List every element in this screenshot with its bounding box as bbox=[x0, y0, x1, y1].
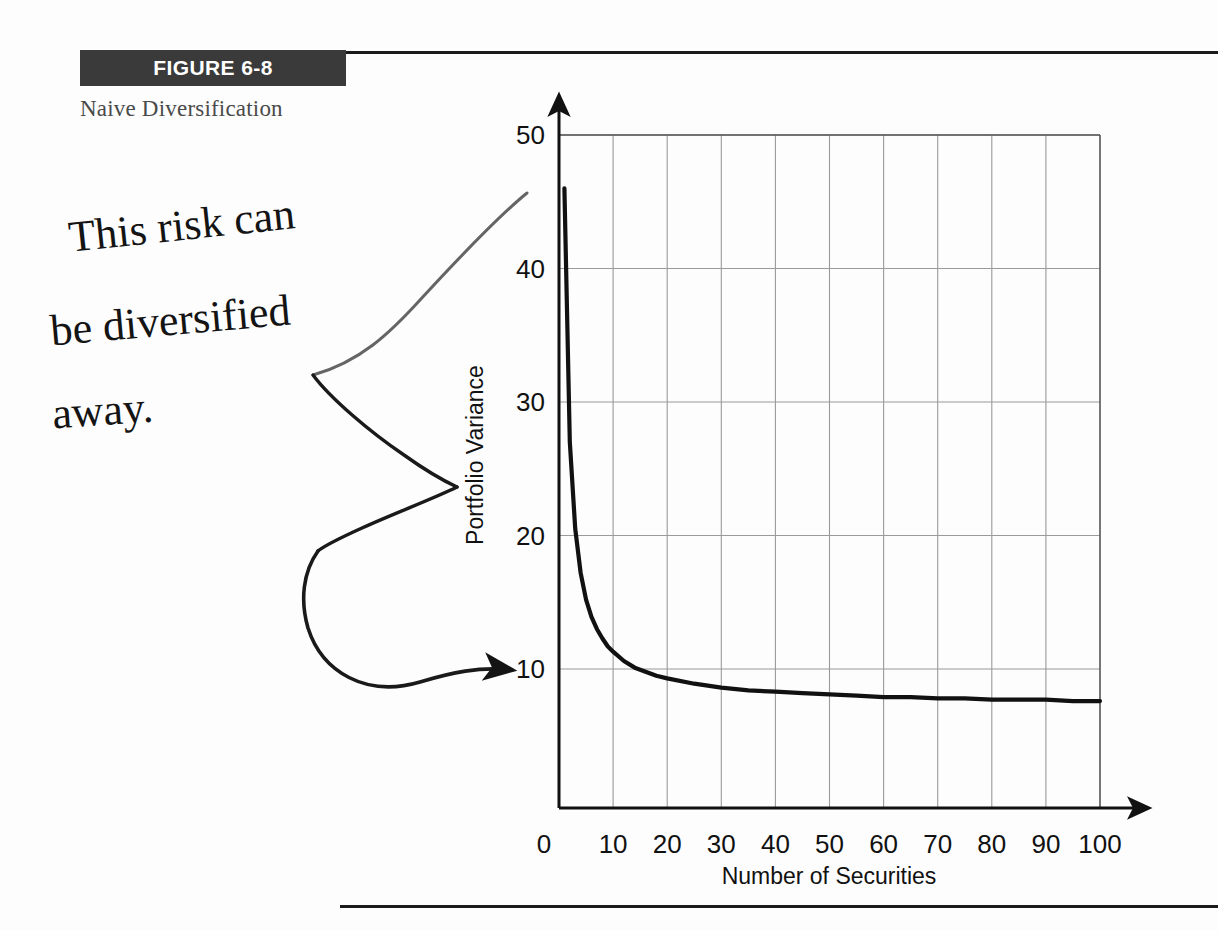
y-tick-10: 10 bbox=[516, 654, 545, 684]
x-tick-0: 0 bbox=[537, 829, 551, 859]
x-axis-title: Number of Securities bbox=[722, 863, 937, 889]
x-tick-70: 70 bbox=[923, 829, 952, 859]
y-tick-50: 50 bbox=[516, 120, 545, 150]
x-tick-20: 20 bbox=[653, 829, 682, 859]
y-tick-40: 40 bbox=[516, 254, 545, 284]
figure-page: FIGURE 6-8 Naive Diversification bbox=[0, 0, 1218, 931]
x-tick-30: 30 bbox=[707, 829, 736, 859]
y-axis-title: Portfolio Variance bbox=[462, 365, 488, 545]
handdrawn-bracket-arrow bbox=[304, 193, 527, 687]
x-tick-90: 90 bbox=[1031, 829, 1060, 859]
chart-container: 0102030405060708090100 1020304050 Number… bbox=[0, 0, 1218, 931]
x-tick-10: 10 bbox=[599, 829, 628, 859]
y-axis-tick-labels: 1020304050 bbox=[516, 120, 545, 684]
y-tick-20: 20 bbox=[516, 521, 545, 551]
vertical-gridlines bbox=[613, 135, 1100, 808]
x-tick-50: 50 bbox=[815, 829, 844, 859]
variance-curve bbox=[564, 188, 1100, 701]
annotation-line-3: away. bbox=[50, 382, 154, 440]
x-axis-tick-labels: 0102030405060708090100 bbox=[537, 829, 1122, 859]
portfolio-variance-chart: 0102030405060708090100 1020304050 Number… bbox=[0, 0, 1218, 931]
x-tick-100: 100 bbox=[1078, 829, 1121, 859]
y-tick-30: 30 bbox=[516, 387, 545, 417]
figure-bottom-rule bbox=[340, 905, 1218, 908]
x-tick-80: 80 bbox=[977, 829, 1006, 859]
x-tick-60: 60 bbox=[869, 829, 898, 859]
x-tick-40: 40 bbox=[761, 829, 790, 859]
